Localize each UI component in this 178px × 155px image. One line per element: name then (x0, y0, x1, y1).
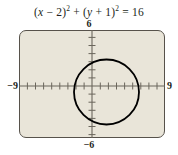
equation-plus-operator: + (70, 6, 83, 18)
equation-h-term: − 2 (43, 6, 62, 18)
equation-k-term: + 1 (92, 6, 111, 18)
equation-caption: (x − 2)2 + (y + 1)2 = 16 (0, 6, 178, 18)
circle-curve (74, 60, 139, 125)
equation-equals-radius-squared: = 16 (119, 6, 144, 18)
x-axis-min-label: −9 (1, 81, 18, 91)
x-axis-max-label: 9 (167, 81, 178, 91)
y-axis-max-label: 6 (0, 19, 178, 29)
coordinate-plane (19, 30, 165, 138)
y-axis-min-label: −6 (0, 140, 178, 150)
graph-figure: (x − 2)2 + (y + 1)2 = 16 (0, 0, 178, 155)
